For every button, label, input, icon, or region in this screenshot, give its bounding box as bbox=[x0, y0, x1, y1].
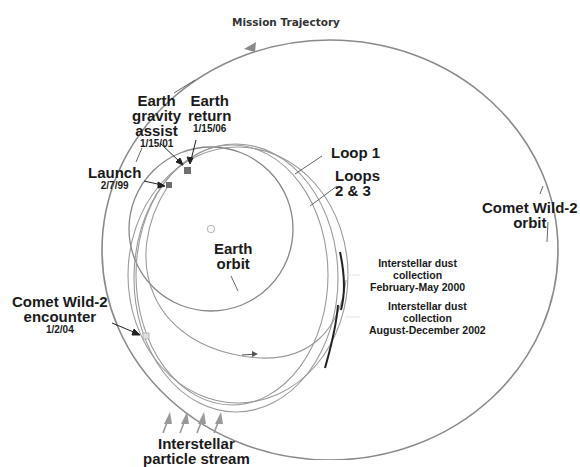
dust-collection-segment-1 bbox=[340, 252, 344, 310]
earth-return-label: Earth return 1/15/06 bbox=[188, 93, 231, 134]
loops23-label: Loops 2 & 3 bbox=[335, 168, 380, 198]
earth-orbit-leader bbox=[231, 276, 238, 291]
encounter-marker bbox=[143, 333, 149, 339]
loop-2-3-a bbox=[136, 145, 328, 405]
comet-orbit-label: Comet Wild-2 orbit bbox=[482, 200, 578, 230]
dust-collection-segment-2 bbox=[325, 305, 338, 368]
dust-collection-2-label: Interstellar dust collection August-Dece… bbox=[369, 300, 486, 336]
sun-icon bbox=[208, 226, 215, 233]
encounter-pointer bbox=[112, 323, 136, 333]
launch-leader bbox=[136, 148, 142, 162]
earth-orbit-label: Earth orbit bbox=[214, 241, 252, 271]
inner-direction-arrow-icon bbox=[252, 351, 258, 357]
launch-marker bbox=[166, 182, 172, 188]
encounter-label: Comet Wild-2 encounter 1/2/04 bbox=[12, 294, 108, 335]
launch-label: Launch 2/7/99 bbox=[88, 165, 141, 191]
earth-gravity-assist-label: Earth gravity assist 1/15/01 bbox=[132, 93, 181, 149]
loop1-leader bbox=[295, 156, 322, 174]
comet-orbit-direction-arrow-icon bbox=[244, 42, 256, 52]
loop1-label: Loop 1 bbox=[331, 145, 380, 160]
loop-2-3-b bbox=[134, 144, 338, 412]
particle-stream-label: Interstellar particle stream bbox=[143, 436, 250, 466]
particle-stream-arrows bbox=[163, 412, 223, 433]
diagram-title: Mission Trajectory bbox=[232, 16, 340, 28]
comet-orbit-leader-top bbox=[540, 186, 543, 194]
dust-collection-1-label: Interstellar dust collection February-Ma… bbox=[370, 257, 465, 293]
earth-gravity-assist-marker bbox=[184, 167, 191, 174]
loops23-leader bbox=[310, 186, 337, 206]
